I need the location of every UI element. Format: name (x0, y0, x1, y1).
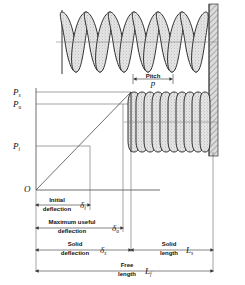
spring-solid-length (124, 92, 218, 152)
spring-diagram-figure: Pitch p Ps Pu Pi (0, 0, 245, 285)
solid-length-line1: Solid (162, 241, 177, 247)
solid-deflection-line2: deflection (61, 250, 90, 256)
force-tick-Pu-sub: u (19, 104, 22, 110)
origin-label: O (24, 184, 31, 194)
maximum-useful-deflection-line1: Maximum useful (48, 219, 95, 225)
solid-length-line2: length (160, 250, 178, 256)
free-length-line2: length (118, 271, 136, 277)
force-tick-Ps-sub: s (19, 92, 21, 98)
pitch-symbol: p (150, 78, 156, 88)
maximum-useful-deflection-line2: deflection (58, 228, 87, 234)
initial-deflection-line2: deflection (43, 206, 72, 212)
free-length-line1: Free (121, 262, 134, 268)
initial-deflection-line1: Initial (49, 197, 65, 203)
solid-deflection-line1: Solid (68, 241, 83, 247)
